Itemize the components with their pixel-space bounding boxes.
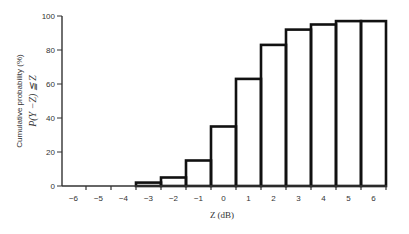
x-tick-label: −1 xyxy=(194,194,204,203)
x-tick-label: 4 xyxy=(321,194,326,203)
x-tick-label: 2 xyxy=(271,194,276,203)
y-tick-label: 0 xyxy=(51,182,56,191)
bar-6 xyxy=(361,21,386,186)
bar-0 xyxy=(211,127,236,187)
y-tick-label: 80 xyxy=(46,46,55,55)
x-tick-label: −5 xyxy=(94,194,104,203)
x-tick-label: −4 xyxy=(119,194,129,203)
x-tick-label: 5 xyxy=(346,194,351,203)
bar-2 xyxy=(261,45,286,186)
bar--2 xyxy=(161,178,186,187)
histogram-bars xyxy=(136,21,386,186)
x-axis-ticks: −6−5−4−3−2−10123456 xyxy=(69,186,386,203)
cumulative-probability-chart: 020406080100 −6−5−4−3−2−10123456 Cumulat… xyxy=(0,0,409,234)
bar-1 xyxy=(236,79,261,186)
x-tick-label: 0 xyxy=(221,194,226,203)
x-tick-label: −2 xyxy=(169,194,179,203)
y-axis-label: Cumulative probability (%) xyxy=(15,54,24,148)
axes xyxy=(62,16,387,186)
y-axis-ticks: 020406080100 xyxy=(42,12,62,191)
x-tick-label: 3 xyxy=(296,194,301,203)
x-tick-label: −3 xyxy=(144,194,154,203)
y-tick-label: 100 xyxy=(42,12,56,21)
x-tick-label: −6 xyxy=(69,194,79,203)
x-tick-label: 6 xyxy=(371,194,376,203)
x-tick-label: 1 xyxy=(246,194,251,203)
bar-5 xyxy=(336,21,361,186)
bar-4 xyxy=(311,25,336,187)
y-tick-label: 40 xyxy=(46,114,55,123)
y-tick-label: 60 xyxy=(46,80,55,89)
x-axis-label: Z (dB) xyxy=(210,210,234,220)
y-tick-label: 20 xyxy=(46,148,55,157)
bar--1 xyxy=(186,161,211,187)
y-axis-label-secondary: P(Y −Z) ≦ Z xyxy=(27,75,39,128)
bar-3 xyxy=(286,30,311,186)
